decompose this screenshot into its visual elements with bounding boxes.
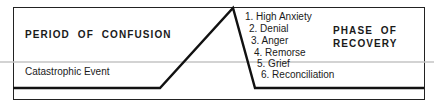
phase-of-recovery-title-line1: PHASE OF (333, 26, 397, 36)
stage-item-anger: 3. Anger (251, 36, 288, 46)
stage-item-high-anxiety: 1. High Anxiety (245, 12, 312, 22)
outer-frame (14, 8, 425, 100)
grief-cycle-diagram: PERIOD OF CONFUSION Catastrophic Event P… (0, 0, 434, 111)
stage-item-reconciliation: 6. Reconciliation (261, 70, 334, 80)
catastrophic-event-label: Catastrophic Event (25, 67, 110, 77)
phase-of-recovery-title-line2: RECOVERY (333, 39, 398, 49)
diagram-lines (0, 0, 434, 111)
stage-item-grief: 5. Grief (257, 59, 290, 69)
period-of-confusion-title: PERIOD OF CONFUSION (25, 30, 172, 40)
stage-item-denial: 2. Denial (249, 24, 288, 34)
stage-item-remorse: 4. Remorse (254, 48, 306, 58)
